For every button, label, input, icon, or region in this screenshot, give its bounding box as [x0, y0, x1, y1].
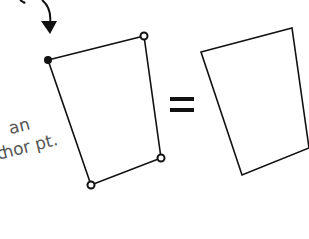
right-quadrilateral [201, 28, 309, 175]
annotation-prefix-1: t [0, 123, 1, 144]
annotation-line-1: an [6, 114, 31, 139]
equals-sign [170, 97, 194, 112]
handle-point[interactable] [158, 155, 165, 162]
left-quadrilateral [44, 33, 165, 189]
handwritten-annotation: t an c hor pt. [0, 108, 60, 164]
handle-point[interactable] [88, 182, 95, 189]
diagram-canvas: t an c hor pt. [0, 0, 309, 239]
handle-point[interactable] [141, 33, 148, 40]
annotation-line-2: hor pt. [0, 129, 60, 162]
anchor-point[interactable] [44, 56, 52, 64]
curved-arrow-icon [20, 0, 57, 34]
